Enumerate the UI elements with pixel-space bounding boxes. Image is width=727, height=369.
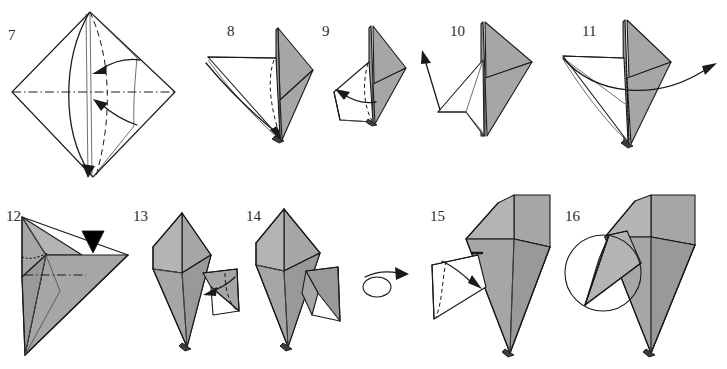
turn-over-arrow-head xyxy=(395,267,409,280)
step-number-7: 7 xyxy=(8,28,16,43)
turn-over-symbol xyxy=(355,255,415,310)
step-panel-16: 16 xyxy=(555,195,727,369)
push-in-triangle-icon-12 xyxy=(82,231,104,253)
head-left-face-16 xyxy=(605,195,651,237)
step-number-12: 12 xyxy=(6,209,21,224)
base-shadow-16 xyxy=(643,349,655,357)
fold-arrow-head-13 xyxy=(203,287,217,296)
step-number-10: 10 xyxy=(450,24,465,39)
turn-over-icon xyxy=(355,255,415,310)
upper-left-face-13 xyxy=(153,213,182,273)
base-shadow-15 xyxy=(502,349,514,357)
step-panel-10: 10 xyxy=(420,0,560,190)
turn-over-arrow-line xyxy=(365,272,399,277)
step-number-15: 15 xyxy=(430,209,445,224)
diamond-base-7 xyxy=(12,12,175,177)
step-number-11: 11 xyxy=(582,24,596,39)
origami-instruction-sheet: 7 8 xyxy=(0,0,727,369)
sweep-arrow-head-11 xyxy=(702,63,717,75)
head-upper-face-15 xyxy=(514,195,550,247)
head-left-face-15 xyxy=(466,195,514,239)
step-panel-11: 11 xyxy=(545,0,727,190)
step-figure-11 xyxy=(545,0,727,190)
step-number-14: 14 xyxy=(246,209,261,224)
step-figure-7 xyxy=(0,0,200,190)
fold-arrow-10 xyxy=(425,60,440,110)
step-panel-7: 7 xyxy=(0,0,200,190)
left-open-flap-10 xyxy=(438,60,484,136)
step-number-16: 16 xyxy=(565,209,580,224)
fold-arrow-head-10 xyxy=(421,50,431,64)
step-number-8: 8 xyxy=(227,24,235,39)
head-upper-face-16 xyxy=(651,195,695,245)
base-shadow-14 xyxy=(280,343,292,351)
step-number-13: 13 xyxy=(133,209,148,224)
step-figure-10 xyxy=(420,0,560,190)
turn-over-loop-icon xyxy=(363,277,391,297)
step-number-9: 9 xyxy=(322,24,330,39)
base-shadow-13 xyxy=(179,343,191,351)
step-figure-16 xyxy=(555,195,727,369)
